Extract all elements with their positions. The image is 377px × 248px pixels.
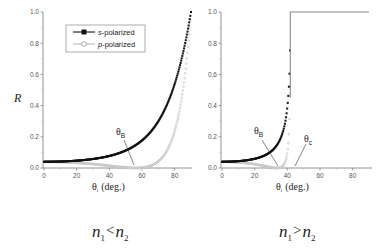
theta-b-label-right: θB (254, 125, 263, 138)
s-polarized-series (221, 12, 369, 163)
data-point (287, 95, 289, 97)
data-point (172, 87, 174, 89)
data-point (177, 71, 179, 73)
data-point (283, 125, 285, 127)
data-point (287, 142, 289, 144)
data-point (283, 128, 285, 130)
x-tick-label: 20 (251, 172, 259, 179)
x-tick-label: 60 (316, 172, 324, 179)
data-point (184, 45, 186, 47)
data-point (188, 21, 190, 23)
data-point (187, 28, 189, 30)
theta-c-label: θc (304, 133, 313, 146)
data-point (180, 60, 182, 62)
x-tick-label: 80 (171, 172, 179, 179)
data-point (187, 52, 189, 54)
data-point (181, 93, 183, 95)
data-point (177, 118, 179, 120)
data-point (190, 11, 192, 13)
left-y-ticks: 0.00.20.40.60.81.0 (30, 8, 43, 171)
data-point (174, 80, 176, 82)
caption-right: n1>n2 (279, 222, 315, 243)
right-x-axis-label: θi(deg.) (276, 181, 309, 193)
y-tick-label: 1.0 (208, 8, 217, 15)
data-point (289, 118, 291, 120)
data-point (180, 104, 182, 106)
y-tick-label: 0.6 (208, 71, 217, 78)
y-tick-label: 0.0 (208, 164, 217, 171)
reflectance-figure: 0.00.20.40.60.81.0 020406080 R s-polariz… (0, 0, 377, 248)
data-point (186, 34, 188, 36)
data-point (286, 108, 288, 110)
data-point (286, 153, 288, 155)
left-plot: 0.00.20.40.60.81.0 020406080 R s-polariz… (13, 8, 192, 243)
y-tick-label: 0.2 (30, 133, 39, 140)
theta-b-pointer (124, 140, 134, 165)
caption-left: n1<n2 (92, 222, 128, 243)
data-point (185, 39, 187, 41)
y-tick-label: 0.4 (30, 102, 39, 109)
data-point (286, 112, 288, 114)
data-point (173, 133, 175, 135)
data-point (183, 86, 185, 88)
right-y-ticks: 0.00.20.40.60.81.0 (208, 8, 221, 171)
data-point (180, 100, 182, 102)
data-point (285, 158, 287, 160)
y-tick-label: 0.8 (30, 40, 39, 47)
right-plot: 0.00.20.40.60.81.0 020406080 θB θc θi(de… (208, 8, 372, 243)
x-tick-label: 80 (349, 172, 357, 179)
left-x-axis-label: θi(deg.) (92, 181, 125, 193)
x-tick-label: 0 (220, 172, 224, 179)
y-tick-label: 0.4 (208, 102, 217, 109)
data-point (174, 129, 176, 131)
data-point (188, 40, 190, 42)
y-tick-label: 0.2 (208, 133, 217, 140)
y-tick-label: 0.6 (30, 71, 39, 78)
right-curves (221, 12, 369, 169)
data-point (184, 73, 186, 75)
data-point (286, 156, 288, 158)
data-point (174, 82, 176, 84)
data-point (181, 97, 183, 99)
data-point (177, 115, 179, 117)
data-point (182, 52, 184, 54)
data-point (287, 102, 289, 104)
data-point (284, 120, 286, 122)
data-point (173, 84, 175, 86)
legend: s-polarized p-polarized (66, 25, 145, 52)
data-point (176, 77, 178, 79)
data-point (189, 18, 191, 20)
data-point (186, 57, 188, 59)
data-point (188, 33, 190, 35)
data-point (182, 90, 184, 92)
data-point (177, 73, 179, 75)
x-tick-label: 40 (106, 172, 114, 179)
data-point (179, 107, 181, 109)
filled-square-icon (82, 30, 87, 35)
data-point (184, 77, 186, 79)
data-point (185, 68, 187, 70)
data-point (176, 121, 178, 123)
data-point (181, 55, 183, 57)
data-point (181, 57, 183, 59)
data-point (284, 123, 286, 125)
data-point (285, 160, 287, 162)
data-point (188, 25, 190, 27)
y-tick-label: 1.0 (30, 8, 39, 15)
x-tick-label: 60 (138, 172, 146, 179)
data-point (178, 66, 180, 68)
data-point (185, 36, 187, 38)
data-point (184, 42, 186, 44)
data-point (173, 86, 175, 88)
data-point (176, 75, 178, 77)
data-point (175, 125, 177, 127)
data-point (185, 63, 187, 65)
data-point (189, 27, 191, 29)
x-tick-label: 20 (73, 172, 81, 179)
data-point (285, 116, 287, 118)
x-tick-label: 40 (284, 172, 292, 179)
data-point (187, 46, 189, 48)
data-point (288, 86, 290, 88)
data-point (287, 148, 289, 150)
data-point (178, 68, 180, 70)
